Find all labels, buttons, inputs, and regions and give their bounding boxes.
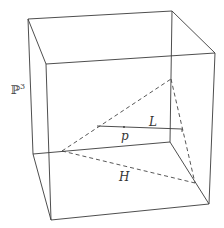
projective-space-diagram: ℙ3 L p H xyxy=(0,0,224,228)
depth-edges xyxy=(28,11,215,220)
front-face xyxy=(46,53,215,220)
back-right-edge xyxy=(170,11,172,142)
front-bottom-edge xyxy=(51,204,209,220)
front-right-edge xyxy=(209,53,215,204)
front-left-edge xyxy=(46,64,51,220)
point-p-dot xyxy=(123,126,125,128)
back-bottom-edge xyxy=(33,142,170,154)
plane-h-label: H xyxy=(118,170,130,184)
front-top-edge xyxy=(46,53,215,64)
back-top-edge xyxy=(28,11,172,19)
line-l-label: L xyxy=(148,115,157,129)
space-label: ℙ3 xyxy=(11,82,25,97)
back-left-edge xyxy=(28,19,33,154)
line-l xyxy=(97,126,182,129)
back-face xyxy=(28,11,172,154)
point-p-label: p xyxy=(121,129,129,143)
